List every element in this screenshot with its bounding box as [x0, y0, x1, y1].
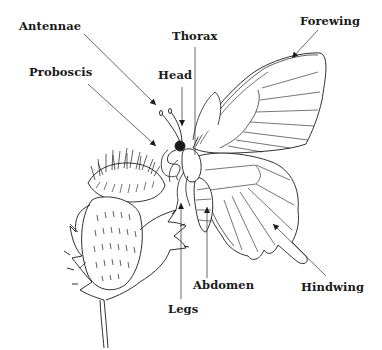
proboscis-leader — [88, 84, 156, 146]
label-hindwing: Hindwing — [301, 280, 364, 294]
label-head: Head — [158, 68, 192, 82]
label-thorax: Thorax — [172, 29, 218, 43]
antennae-shape — [162, 112, 182, 142]
label-antennae: Antennae — [19, 19, 81, 33]
thistle-stem — [100, 300, 108, 348]
hindwing-leader — [273, 224, 326, 276]
butterfly — [160, 53, 326, 264]
antennae-leader — [84, 34, 156, 105]
thistle-bulb — [82, 197, 143, 290]
thorax-shape — [182, 149, 201, 182]
label-proboscis: Proboscis — [29, 65, 92, 79]
thistle-flower-head — [88, 148, 165, 202]
butterfly-anatomy-diagram: Antennae Proboscis Head Thorax Forewing … — [0, 0, 382, 350]
illustration — [0, 0, 382, 350]
head-shape — [175, 141, 185, 151]
label-abdomen: Abdomen — [193, 278, 254, 292]
label-legs: Legs — [168, 302, 198, 316]
thistle-plant — [64, 148, 189, 348]
label-forewing: Forewing — [300, 14, 360, 28]
